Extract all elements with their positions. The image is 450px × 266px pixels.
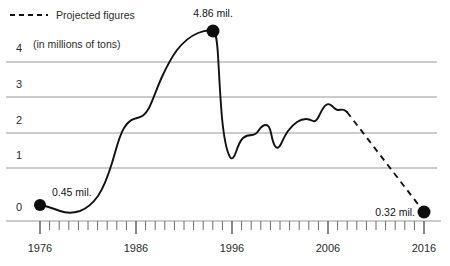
annotation-label-end: 0.32 mil. xyxy=(375,206,415,218)
legend: Projected figures xyxy=(10,9,135,21)
x-axis-labels: 1976 1986 1996 2006 2016 xyxy=(28,242,436,254)
x-tick-label-1976: 1976 xyxy=(28,242,52,254)
y-tick-label-4: 4 xyxy=(16,42,22,54)
marker-start-dot xyxy=(34,199,46,211)
x-tick-label-1996: 1996 xyxy=(220,242,244,254)
y-tick-label-0: 0 xyxy=(16,201,22,213)
chart-subtitle: (in millions of tons) xyxy=(33,38,121,50)
marker-end-dot xyxy=(418,206,431,219)
y-tick-label-2: 2 xyxy=(16,114,22,126)
y-axis-labels: 4 3 2 1 0 xyxy=(16,42,22,213)
annotation-markers xyxy=(34,25,431,219)
x-tick-label-2006: 2006 xyxy=(316,242,340,254)
annotation-label-start: 0.45 mil. xyxy=(52,186,92,198)
y-tick-label-1: 1 xyxy=(16,149,22,161)
legend-label-projected: Projected figures xyxy=(56,9,135,21)
x-tick-label-1986: 1986 xyxy=(124,242,148,254)
x-tick-label-2016: 2016 xyxy=(412,242,436,254)
series-line-projected xyxy=(347,112,424,212)
annotation-label-peak: 4.86 mil. xyxy=(193,7,233,19)
marker-peak-dot xyxy=(207,25,220,38)
line-chart: 4 3 2 1 0 Projected figures (in millions… xyxy=(0,0,450,266)
y-tick-label-3: 3 xyxy=(16,78,22,90)
chart-container: 4 3 2 1 0 Projected figures (in millions… xyxy=(0,0,450,266)
x-axis xyxy=(6,221,441,234)
